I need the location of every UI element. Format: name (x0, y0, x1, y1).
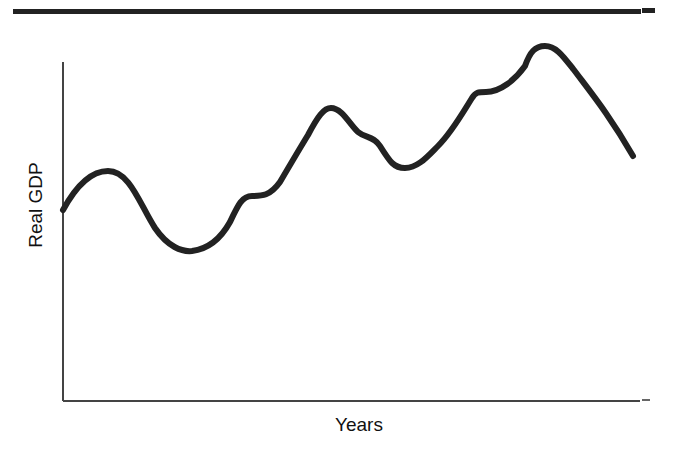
y-axis-label: Real GDP (25, 162, 47, 248)
real-gdp-line (63, 46, 633, 251)
x-axis-label: Years (335, 414, 383, 436)
chart-area (0, 0, 673, 458)
